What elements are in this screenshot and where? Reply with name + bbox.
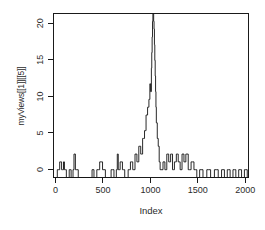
plot-canvas: 0 5 10 15 20 myViews[[1]][[5]] 0 500 100… [0,0,265,230]
figure-background [0,0,265,230]
y-tick-label-20: 20 [35,18,45,28]
x-tick-label-1500: 1500 [188,185,208,195]
x-tick-label-0: 0 [53,185,58,195]
x-tick-label-2000: 2000 [235,185,255,195]
y-axis-title: myViews[[1]][[5]] [16,67,26,126]
y-tick-label-15: 15 [35,55,45,65]
x-tick-label-1000: 1000 [140,185,160,195]
y-tick-label-10: 10 [35,91,45,101]
x-axis-title: Index [139,205,162,216]
y-tick-label-5: 5 [35,130,45,135]
y-tick-label-0: 0 [35,167,45,172]
x-tick-label-500: 500 [95,185,110,195]
r-plot-figure: 0 5 10 15 20 myViews[[1]][[5]] 0 500 100… [0,0,265,230]
